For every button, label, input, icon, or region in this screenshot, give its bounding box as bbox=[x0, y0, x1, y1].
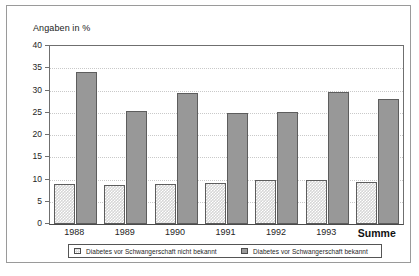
bar[interactable] bbox=[356, 182, 377, 224]
bar-group bbox=[104, 46, 147, 224]
y-axis-tick-labels: 0510152025303540 bbox=[7, 45, 47, 225]
x-axis-tick-label: 1990 bbox=[165, 227, 185, 237]
x-axis-tick-label: 1991 bbox=[215, 227, 235, 237]
bar[interactable] bbox=[306, 180, 327, 225]
legend-swatch-icon-light bbox=[74, 248, 81, 254]
bar[interactable] bbox=[277, 112, 298, 224]
x-axis-tick-label: 1993 bbox=[316, 227, 336, 237]
bar[interactable] bbox=[205, 183, 226, 224]
y-axis-tick-label: 5 bbox=[37, 196, 42, 206]
legend-entry-bekannt[interactable]: Diabetes vor Schwangerschaft bekannt bbox=[237, 245, 368, 257]
y-axis-title: Angaben in % bbox=[33, 23, 90, 33]
y-axis-tick-label: 0 bbox=[37, 218, 42, 228]
x-axis-tick-labels: 198819891990199119921993Summe bbox=[49, 227, 404, 243]
bar-group bbox=[54, 46, 97, 224]
y-axis-tick-label: 30 bbox=[33, 85, 42, 95]
bar[interactable] bbox=[126, 111, 147, 224]
x-axis-tick-label: 1989 bbox=[115, 227, 135, 237]
bar[interactable] bbox=[104, 185, 125, 224]
bar[interactable] bbox=[54, 184, 75, 224]
bar[interactable] bbox=[378, 99, 399, 224]
y-axis-tick-label: 20 bbox=[33, 129, 42, 139]
y-axis-tick-label: 25 bbox=[33, 107, 42, 117]
plot-area bbox=[49, 45, 404, 225]
legend-label-nicht-bekannt: Diabetes vor Schwangerschaft nicht bekan… bbox=[86, 248, 217, 255]
y-axis-tick-label: 35 bbox=[33, 62, 42, 72]
legend-swatch-icon-dark bbox=[241, 248, 248, 254]
bar[interactable] bbox=[255, 180, 276, 225]
bar-group bbox=[155, 46, 198, 224]
bar-group bbox=[356, 46, 399, 224]
y-axis-tick-label: 15 bbox=[33, 151, 42, 161]
bar-group bbox=[255, 46, 298, 224]
x-axis-tick-label: 1988 bbox=[64, 227, 84, 237]
chart-legend: Diabetes vor Schwangerschaft nicht bekan… bbox=[68, 244, 382, 258]
y-axis-tick-label: 40 bbox=[33, 40, 42, 50]
bar[interactable] bbox=[328, 92, 349, 224]
x-axis-tick-label: 1992 bbox=[266, 227, 286, 237]
x-axis-tick-label: Summe bbox=[358, 227, 396, 239]
bar[interactable] bbox=[76, 72, 97, 224]
bar-group bbox=[306, 46, 349, 224]
legend-label-bekannt: Diabetes vor Schwangerschaft bekannt bbox=[253, 248, 368, 255]
bar-group bbox=[205, 46, 248, 224]
legend-entry-nicht-bekannt[interactable]: Diabetes vor Schwangerschaft nicht bekan… bbox=[69, 245, 237, 257]
bar[interactable] bbox=[177, 93, 198, 224]
bar-series-container bbox=[50, 46, 403, 224]
chart-figure: Angaben in % 0510152025303540 1988198919… bbox=[6, 5, 411, 263]
y-axis-tick-label: 10 bbox=[33, 174, 42, 184]
bar[interactable] bbox=[227, 113, 248, 224]
bar[interactable] bbox=[155, 184, 176, 224]
